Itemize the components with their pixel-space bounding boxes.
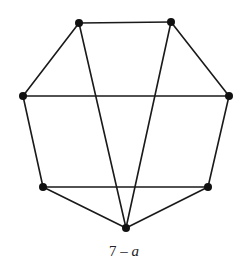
edge-top-left-top-right — [79, 22, 171, 23]
graph-nodes — [19, 18, 233, 232]
node-bottom-left — [39, 183, 47, 191]
edge-bottom-right-bottom — [126, 187, 208, 228]
node-top-right — [167, 18, 175, 26]
node-right — [225, 92, 233, 100]
caption-number: 7 — [109, 243, 117, 259]
caption-variable: a — [132, 243, 140, 259]
edge-left-bottom-left — [23, 96, 43, 187]
edge-right-bottom-right — [208, 96, 229, 187]
node-bottom — [122, 224, 130, 232]
edge-top-left-bottom — [79, 23, 126, 228]
caption-separator: – — [117, 243, 132, 259]
graph-edges — [23, 22, 229, 228]
figure-caption: 7 – a — [0, 243, 248, 260]
node-bottom-right — [204, 183, 212, 191]
node-left — [19, 92, 27, 100]
graph-diagram — [0, 0, 248, 268]
node-top-left — [75, 19, 83, 27]
edge-top-right-bottom — [126, 22, 171, 228]
edge-top-right-right — [171, 22, 229, 96]
edge-bottom-left-bottom — [43, 187, 126, 228]
edge-top-left-left — [23, 23, 79, 96]
